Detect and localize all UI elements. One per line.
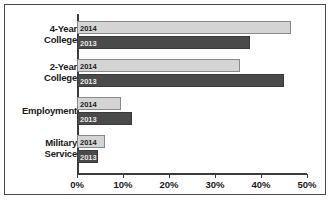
x-axis-tick — [169, 174, 170, 178]
bar-2013-military-service[interactable]: 2013 — [77, 150, 98, 163]
bar-series-label: 2014 — [80, 22, 97, 35]
bar-2013-employment[interactable]: 2013 — [77, 112, 132, 125]
x-axis-tick-label: 30% — [198, 179, 232, 190]
x-axis-tick-label: 20% — [152, 179, 186, 190]
bar-2013-4-year-college[interactable]: 2013 — [77, 36, 250, 49]
category-label-line: Employment — [9, 105, 77, 116]
bar-series-label: 2014 — [80, 60, 97, 73]
category-label-employment: Employment — [9, 105, 77, 116]
bar-2014-military-service[interactable]: 2014 — [77, 135, 105, 148]
category-label-line: Military — [9, 137, 77, 148]
chart-frame: 4-YearCollege2-YearCollegeEmploymentMili… — [4, 4, 326, 195]
x-axis-tick-label: 40% — [244, 179, 278, 190]
bar-chart-plot: 4-YearCollege2-YearCollegeEmploymentMili… — [5, 5, 327, 196]
bar-2014-4-year-college[interactable]: 2014 — [77, 21, 291, 34]
x-axis-tick — [77, 174, 78, 178]
category-label-line: Service — [9, 148, 77, 159]
bar-2014-2-year-college[interactable]: 2014 — [77, 59, 240, 72]
category-label-line: 2-Year — [9, 61, 77, 72]
category-label-line: College — [9, 34, 77, 45]
category-label-4-year-college: 4-YearCollege — [9, 23, 77, 45]
bar-series-label: 2014 — [80, 98, 97, 111]
x-axis-tick — [215, 174, 216, 178]
bar-2013-2-year-college[interactable]: 2013 — [77, 74, 284, 87]
bar-series-label: 2014 — [80, 136, 97, 149]
bar-series-label: 2013 — [80, 151, 97, 164]
x-axis-tick-label: 50% — [290, 179, 324, 190]
x-axis-line — [77, 173, 307, 175]
bar-series-label: 2013 — [80, 37, 97, 50]
x-axis-tick-label: 0% — [60, 179, 94, 190]
bar-series-label: 2013 — [80, 113, 97, 126]
category-label-2-year-college: 2-YearCollege — [9, 61, 77, 83]
bar-series-label: 2013 — [80, 75, 97, 88]
bar-2014-employment[interactable]: 2014 — [77, 97, 121, 110]
category-label-line: 4-Year — [9, 23, 77, 34]
category-label-line: College — [9, 72, 77, 83]
x-axis-tick — [307, 174, 308, 178]
x-axis-tick — [261, 174, 262, 178]
x-axis-tick — [123, 174, 124, 178]
category-label-military-service: MilitaryService — [9, 137, 77, 159]
x-axis-tick-label: 10% — [106, 179, 140, 190]
